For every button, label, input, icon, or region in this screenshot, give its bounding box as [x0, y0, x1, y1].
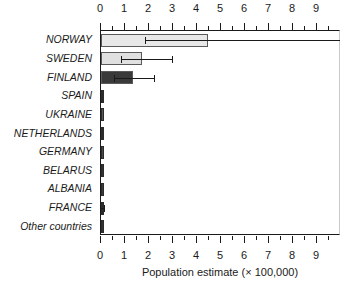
x-axis-tick-label: 2	[145, 250, 151, 261]
x-axis-tick-label: 5	[217, 250, 223, 261]
x-axis-tick-major	[292, 236, 293, 243]
error-bar	[114, 78, 154, 79]
y-axis-category-labels: NORWAYSWEDENFINLANDSPAINUKRAINENETHERLAN…	[0, 30, 96, 235]
x-axis-tick-major	[148, 236, 149, 243]
x-axis-top	[100, 16, 340, 30]
x-axis-tick-minor	[112, 236, 113, 240]
x-axis-bottom	[100, 236, 340, 250]
error-bar-cap-upper	[154, 75, 155, 82]
x-axis-tick-label: 7	[265, 250, 271, 261]
x-axis-tick-minor	[304, 236, 305, 240]
x-axis-tick-label: 7	[265, 3, 271, 14]
y-axis-category-label: NORWAY	[46, 33, 92, 45]
x-axis-tick-major	[244, 23, 245, 30]
x-axis-tick-label: 4	[193, 250, 199, 261]
bar	[101, 127, 104, 140]
x-axis-tick-label: 0	[97, 3, 103, 14]
x-axis-tick-label: 3	[169, 250, 175, 261]
y-axis-category-label: FRANCE	[49, 201, 92, 213]
y-axis-category-label: FINLAND	[47, 71, 92, 83]
y-axis-category-label: Other countries	[20, 220, 92, 232]
x-axis-tick-label: 4	[193, 3, 199, 14]
x-axis-tick-label: 9	[313, 3, 319, 14]
x-axis-title: Population estimate (× 100,000)	[100, 266, 340, 278]
x-axis-tick-minor	[208, 236, 209, 240]
error-bar-cap-lower	[121, 56, 122, 63]
x-axis-tick-minor	[136, 236, 137, 240]
x-axis-tick-label: 6	[241, 3, 247, 14]
x-axis-tick-major	[244, 236, 245, 243]
error-bar-cap-upper	[172, 56, 173, 63]
x-axis-tick-label: 8	[289, 3, 295, 14]
bar	[101, 183, 104, 196]
bar	[101, 108, 104, 121]
x-axis-tick-major	[172, 236, 173, 243]
x-axis-tick-label: 1	[121, 250, 127, 261]
x-axis-tick-major	[196, 23, 197, 30]
y-axis-category-label: SPAIN	[61, 89, 92, 101]
x-axis-tick-minor	[280, 236, 281, 240]
x-axis-tick-major	[100, 236, 101, 243]
y-axis-category-label: BELARUS	[43, 164, 92, 176]
y-axis-category-label: SWEDEN	[46, 52, 92, 64]
y-axis-category-label: NETHERLANDS	[14, 127, 92, 139]
x-axis-tick-major	[148, 23, 149, 30]
bar-series	[101, 31, 340, 234]
x-axis-bottom-tick-labels: 0123456789	[100, 250, 340, 263]
x-axis-tick-major	[100, 23, 101, 30]
error-bar-cap-lower	[145, 37, 146, 44]
x-axis-tick-minor	[232, 236, 233, 240]
x-axis-tick-label: 2	[145, 3, 151, 14]
population-estimate-bar-chart: 0123456789 NORWAYSWEDENFINLANDSPAINUKRAI…	[0, 0, 350, 286]
error-bar	[145, 40, 340, 41]
x-axis-tick-label: 6	[241, 250, 247, 261]
x-axis-tick-major	[268, 23, 269, 30]
x-axis-tick-major	[268, 236, 269, 243]
x-axis-tick-major	[316, 236, 317, 243]
x-axis-tick-major	[316, 23, 317, 30]
x-axis-tick-minor	[160, 236, 161, 240]
x-axis-tick-minor	[184, 236, 185, 240]
bar	[101, 146, 104, 159]
x-axis-tick-minor	[256, 236, 257, 240]
y-axis-category-label: GERMANY	[39, 145, 92, 157]
x-axis-tick-major	[172, 23, 173, 30]
x-axis-tick-label: 9	[313, 250, 319, 261]
x-axis-tick-major	[196, 236, 197, 243]
x-axis-tick-major	[220, 23, 221, 30]
x-axis-tick-major	[292, 23, 293, 30]
x-axis-tick-label: 8	[289, 250, 295, 261]
x-axis-tick-major	[220, 236, 221, 243]
x-axis-tick-label: 3	[169, 3, 175, 14]
x-axis-tick-label: 5	[217, 3, 223, 14]
bar	[101, 90, 104, 103]
bar	[101, 220, 104, 233]
y-axis-category-label: UKRAINE	[45, 108, 92, 120]
x-axis-tick-label: 0	[97, 250, 103, 261]
x-axis-tick-major	[124, 23, 125, 30]
error-bar-cap-upper	[104, 205, 105, 212]
bar	[101, 164, 104, 177]
x-axis-top-tick-labels: 0123456789	[100, 3, 340, 16]
x-axis-tick-label: 1	[121, 3, 127, 14]
error-bar-cap-lower	[114, 75, 115, 82]
error-bar	[121, 59, 171, 60]
x-axis-tick-minor	[328, 236, 329, 240]
y-axis-category-label: ALBANIA	[48, 182, 92, 194]
x-axis-tick-major	[124, 236, 125, 243]
